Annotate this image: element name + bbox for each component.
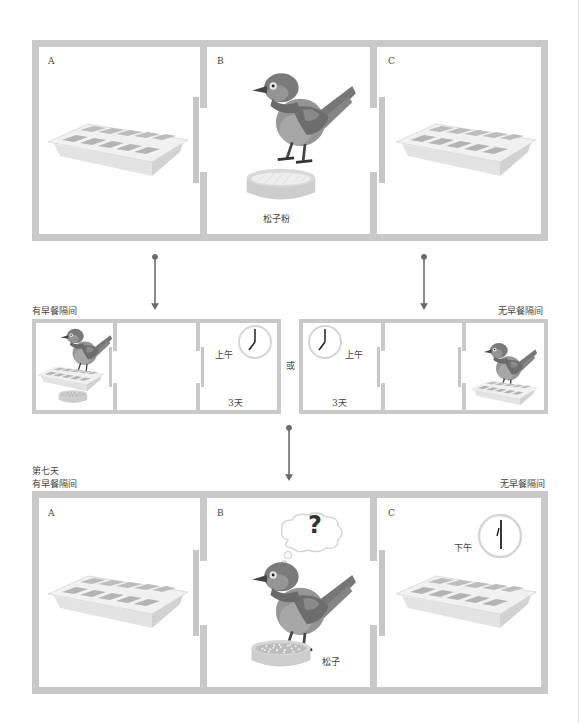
test-door-bc bbox=[379, 550, 385, 636]
room-label-a: A bbox=[48, 508, 55, 518]
bowl-label-seeds: 松子 bbox=[322, 655, 340, 668]
room-label-b: B bbox=[217, 508, 224, 518]
test-wall-left bbox=[32, 491, 39, 694]
seed-bowl-icon bbox=[250, 638, 312, 670]
test-wall-top bbox=[32, 491, 548, 498]
test-wall-right bbox=[541, 491, 548, 694]
time-label-afternoon: 下午 bbox=[454, 541, 472, 554]
caching-tray-icon bbox=[48, 570, 188, 630]
caching-tray-icon bbox=[396, 570, 536, 630]
test-partition-bc-lower bbox=[370, 625, 377, 694]
test-wall-bottom bbox=[32, 687, 548, 694]
test-partition-bc-upper bbox=[370, 491, 377, 561]
test-apparatus: A B C ? 松子 下午 bbox=[0, 0, 581, 723]
room-label-c: C bbox=[388, 508, 395, 518]
clock-icon bbox=[476, 512, 524, 560]
test-partition-ab-lower bbox=[200, 625, 207, 694]
test-partition-ab-upper bbox=[200, 491, 207, 561]
question-mark: ? bbox=[308, 511, 322, 539]
test-door-ab bbox=[193, 550, 199, 636]
